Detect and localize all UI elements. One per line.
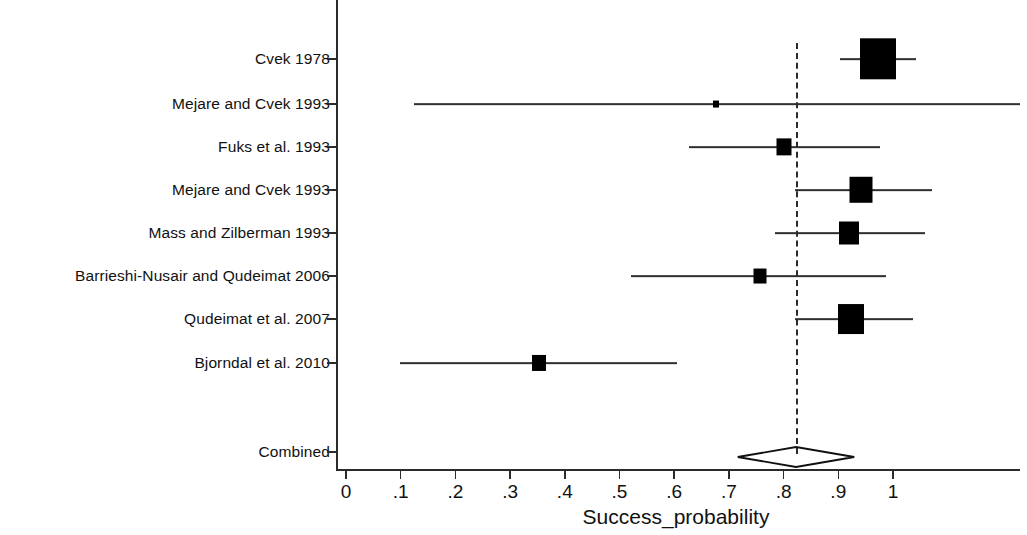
effect-size-marker (532, 355, 546, 371)
y-tick (327, 318, 336, 320)
y-tick-combined (327, 451, 336, 453)
y-axis-line (336, 0, 338, 470)
x-tick (892, 470, 894, 479)
study-label: Cvek 1978 (255, 50, 330, 68)
combined-diamond (736, 445, 857, 469)
y-tick (327, 362, 336, 364)
effect-size-marker (860, 38, 896, 79)
study-label: Mass and Zilberman 1993 (148, 224, 330, 242)
effect-size-marker (849, 177, 872, 203)
x-tick-label: .3 (502, 481, 518, 503)
effect-size-marker (839, 222, 859, 245)
x-tick (345, 470, 347, 479)
y-tick (327, 103, 336, 105)
study-label: Bjorndal et al. 2010 (194, 354, 330, 372)
effect-size-marker (838, 304, 864, 334)
y-tick (327, 58, 336, 60)
study-label: Mejare and Cvek 1993 (172, 181, 330, 199)
x-tick (728, 470, 730, 479)
study-label: Barrieshi-Nusair and Qudeimat 2006 (75, 267, 330, 285)
x-tick-label: .6 (666, 481, 682, 503)
x-tick-label: .7 (721, 481, 737, 503)
x-tick (455, 470, 457, 479)
x-tick-label: .9 (830, 481, 846, 503)
x-tick-label: .5 (612, 481, 628, 503)
x-tick (619, 470, 621, 479)
x-tick (509, 470, 511, 479)
x-tick (564, 470, 566, 479)
x-tick-label: 1 (888, 481, 899, 503)
y-tick (327, 275, 336, 277)
x-tick (673, 470, 675, 479)
x-axis-title: Success_probability (583, 505, 770, 529)
effect-size-marker (713, 101, 719, 108)
effect-size-marker (753, 269, 766, 284)
study-label: Qudeimat et al. 2007 (184, 310, 330, 328)
x-tick-label: .8 (776, 481, 792, 503)
study-label-column: Cvek 1978Mejare and Cvek 1993Fuks et al.… (0, 0, 330, 535)
x-tick-label: 0 (341, 481, 352, 503)
study-label: Mejare and Cvek 1993 (172, 95, 330, 113)
x-tick (838, 470, 840, 479)
x-axis-line (336, 469, 1020, 471)
x-tick (400, 470, 402, 479)
x-tick-label: .1 (393, 481, 409, 503)
effect-size-marker (776, 138, 791, 155)
combined-label: Combined (259, 443, 330, 461)
forest-plot: Cvek 1978Mejare and Cvek 1993Fuks et al.… (0, 0, 1027, 535)
x-tick (783, 470, 785, 479)
y-tick (327, 146, 336, 148)
study-label: Fuks et al. 1993 (218, 138, 330, 156)
y-tick (327, 232, 336, 234)
x-tick-label: .4 (557, 481, 573, 503)
x-tick-label: .2 (447, 481, 463, 503)
y-tick (327, 189, 336, 191)
